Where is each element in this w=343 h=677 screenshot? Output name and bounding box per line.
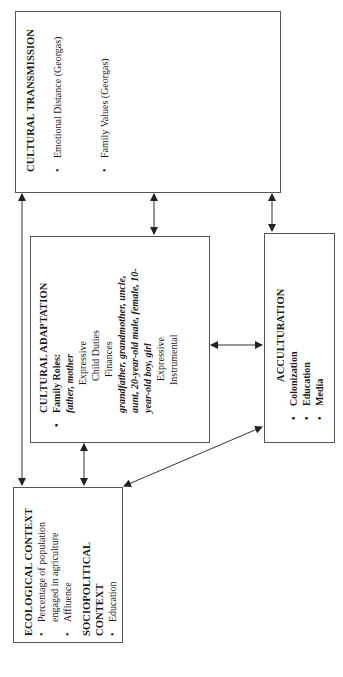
cultural-transmission-box: CULTURAL TRANSMISSION •Emotional Distanc… [15,11,281,193]
role-function: Finances [102,268,115,427]
ecological-context-content: ECOLOGICAL CONTEXT •Percentage of popula… [22,508,119,636]
role-function: Child Duties [89,268,102,427]
list-item: •Education [106,508,119,636]
cultural-adaptation-content: CULTURAL ADAPTATION •Family Roles: fathe… [37,268,180,427]
bullet-icon: • [35,622,48,636]
cultural-transmission-title: CULTURAL TRANSMISSION [24,29,37,172]
sociopolitical-title: CONTEXT [93,508,106,636]
bullet-icon: • [51,158,64,172]
list-item-continuation: engaged in agriculture [48,508,61,636]
bullet-icon: • [98,158,111,172]
list-item: •Affluence [61,508,74,636]
list-item: •Family Values (Georgas) [98,29,111,172]
family-roles-group1: father, mother [63,268,76,427]
bullet-icon: • [106,622,119,636]
acculturation-box: ACCULTURATION •Colonization •Education •… [264,233,335,443]
list-item: •Emotional Distance (Georgas) [51,29,64,172]
bullet-icon: • [287,406,300,420]
sociopolitical-title: SOCIOPOLITICAL [80,508,93,636]
role-function: Expressive [76,268,89,427]
role-function: Expressive [154,268,167,427]
acculturation-content: ACCULTURATION •Colonization •Education •… [274,289,326,420]
family-roles-group2: year-old boy, girl [141,268,154,427]
family-roles-group2: aunt, 20-year-old male, female, 10- [128,268,141,427]
ecological-context-title: ECOLOGICAL CONTEXT [22,508,35,636]
ecological-context-box: ECOLOGICAL CONTEXT •Percentage of popula… [13,487,123,643]
bullet-icon: • [313,406,326,420]
list-item: •Family Roles: [50,268,63,427]
bullet-icon: • [61,622,74,636]
cultural-adaptation-title: CULTURAL ADAPTATION [37,268,50,427]
list-item: •Percentage of population [35,508,48,636]
list-item: •Education [300,289,313,420]
acculturation-title: ACCULTURATION [274,289,287,420]
bullet-icon: • [50,413,63,427]
list-item: •Media [313,289,326,420]
cultural-adaptation-box: CULTURAL ADAPTATION •Family Roles: fathe… [30,236,210,443]
list-item: •Colonization [287,289,300,420]
role-function: Instrumental [167,268,180,427]
bullet-icon: • [300,406,313,420]
family-roles-group2: grandfather, grandmother, uncle, [115,268,128,427]
cultural-transmission-content: CULTURAL TRANSMISSION •Emotional Distanc… [24,29,111,172]
